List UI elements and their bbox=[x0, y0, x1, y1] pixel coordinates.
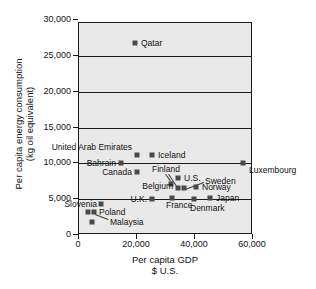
x-axis-tick-label: 40,000 bbox=[180, 240, 208, 249]
y-axis-title-line1: Per capita energy consumption bbox=[13, 29, 24, 219]
data-point-label: Norway bbox=[202, 183, 231, 192]
x-axis-title-line2: $ U.S. bbox=[78, 265, 252, 276]
data-point-label: Canada bbox=[102, 168, 132, 177]
y-axis-tick bbox=[73, 162, 78, 163]
x-axis-title: Per capita GDP $ U.S. bbox=[78, 254, 252, 276]
data-point-marker bbox=[119, 161, 124, 166]
x-axis-tick-label: 60,000 bbox=[238, 240, 266, 249]
y-axis-tick-label: 15,000 bbox=[43, 122, 71, 131]
y-axis-tick-label: 20,000 bbox=[43, 86, 71, 95]
data-point-label: Slovenia bbox=[64, 200, 97, 209]
y-axis-tick-label: 25,000 bbox=[43, 50, 71, 59]
data-point-label: Poland bbox=[99, 208, 125, 217]
data-point-label: U.K. bbox=[130, 195, 147, 204]
data-point-marker bbox=[176, 186, 181, 191]
y-axis-tick bbox=[73, 55, 78, 56]
y-axis-tick-label: 10,000 bbox=[43, 158, 71, 167]
data-point-marker bbox=[86, 210, 91, 215]
data-point-marker bbox=[176, 176, 181, 181]
data-point-marker bbox=[182, 186, 187, 191]
data-point-marker bbox=[135, 170, 140, 175]
data-point-label: United Arab Emirates bbox=[52, 143, 132, 152]
data-point-marker bbox=[150, 197, 155, 202]
x-axis-tick-label: 20,000 bbox=[122, 240, 150, 249]
data-point-label: France bbox=[166, 201, 192, 210]
y-axis-tick bbox=[73, 91, 78, 92]
data-point-marker bbox=[135, 153, 140, 158]
data-point-label: Japan bbox=[216, 194, 239, 203]
data-point-label: U.S. bbox=[184, 174, 201, 183]
y-axis-tick-label: 30,000 bbox=[43, 15, 71, 24]
data-point-label: Qatar bbox=[141, 39, 162, 48]
gridline-y bbox=[79, 92, 251, 93]
data-point-marker bbox=[92, 210, 97, 215]
data-point-marker bbox=[192, 197, 197, 202]
y-axis-title-line2: (kg oil equivalent) bbox=[24, 29, 35, 219]
x-axis-title-line1: Per capita GDP bbox=[78, 254, 252, 265]
y-axis-tick bbox=[73, 127, 78, 128]
data-point-label: Malaysia bbox=[110, 218, 144, 227]
y-axis-tick-label: 0 bbox=[66, 230, 71, 239]
data-point-label: Finland bbox=[152, 165, 180, 174]
data-point-marker bbox=[208, 196, 213, 201]
gridline-y bbox=[79, 128, 251, 129]
x-axis-tick-label: 0 bbox=[75, 240, 80, 249]
chart-container: 05,00010,00015,00020,00025,00030,000 Per… bbox=[0, 0, 316, 289]
data-point-label: Luxembourg bbox=[249, 166, 296, 175]
data-point-marker bbox=[150, 153, 155, 158]
data-point-label: Belgium bbox=[142, 182, 173, 191]
gridline-y bbox=[79, 56, 251, 57]
data-point-marker bbox=[194, 185, 199, 190]
data-point-marker bbox=[241, 161, 246, 166]
data-point-marker bbox=[90, 220, 95, 225]
y-axis-title: Per capita energy consumption (kg oil eq… bbox=[13, 29, 35, 219]
y-axis-tick bbox=[73, 19, 78, 20]
data-point-marker bbox=[133, 41, 138, 46]
data-point-label: Denmark bbox=[190, 204, 224, 213]
data-point-marker bbox=[99, 202, 104, 207]
data-point-label: Iceland bbox=[158, 151, 185, 160]
